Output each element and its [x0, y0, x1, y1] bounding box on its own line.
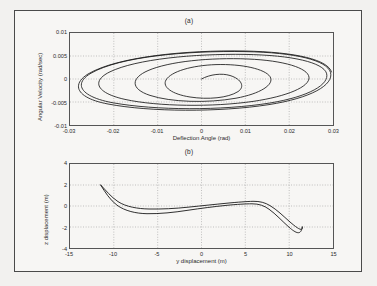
panel-b-ylabel: z displacement (m) — [43, 194, 49, 245]
panel-a-xlabel: Deflection Angle (rad) — [69, 135, 334, 141]
panel-b-xtick-2: -5 — [155, 251, 160, 257]
panel-a-xtick-2: -0.01 — [151, 128, 164, 134]
panel-a-xtick-1: -0.02 — [107, 128, 120, 134]
panel-a: (a) Angular Velocity (rad/sec) 0.01 0.00… — [15, 11, 363, 142]
panel-b-ytick-3: -2 — [53, 225, 67, 231]
panel-a-ytick-1: 0.005 — [47, 53, 67, 59]
panel-b-title: (b) — [15, 148, 363, 155]
panel-b-xtick-1: -10 — [109, 251, 117, 257]
panel-a-svg — [70, 33, 333, 125]
panel-b-ytick-1: 2 — [53, 182, 67, 188]
panel-a-title: (a) — [15, 17, 363, 24]
figure-border: (a) Angular Velocity (rad/sec) 0.01 0.00… — [14, 10, 362, 272]
panel-a-xtick-5: 0.02 — [284, 128, 295, 134]
panel-b-upper-branch — [101, 185, 303, 229]
panel-b-ytick-2: 0 — [53, 203, 67, 209]
panel-b-ytick-0: 4 — [53, 160, 67, 166]
panel-b-xtick-4: 5 — [244, 251, 247, 257]
panel-a-xtick-3: 0 — [200, 128, 203, 134]
panel-a-phase-trajectory — [78, 51, 331, 110]
panel-b-svg — [70, 164, 333, 248]
panel-a-ytick-2: 0 — [47, 76, 67, 82]
panel-a-xtick-4: 0.01 — [240, 128, 251, 134]
panel-a-xtick-6: 0.03 — [328, 128, 339, 134]
panel-a-ytick-0: 0.01 — [47, 29, 67, 35]
panel-b-xlabel: y displacement (m) — [69, 258, 334, 264]
panel-b-xtick-6: 15 — [330, 251, 336, 257]
panel-b: (b) z displacement (m) 4 2 0 -2 -4 — [15, 142, 363, 273]
panel-b-plot-area — [69, 163, 334, 249]
panel-a-xtick-0: -0.03 — [63, 128, 76, 134]
panel-a-ylabel: Angular Velocity (rad/sec) — [37, 53, 43, 121]
panel-b-xtick-3: 0 — [200, 251, 203, 257]
panel-b-xtick-0: -15 — [65, 251, 73, 257]
panel-a-plot-area — [69, 32, 334, 126]
panel-b-xtick-5: 10 — [286, 251, 292, 257]
panel-a-ytick-3: -0.005 — [47, 100, 67, 106]
